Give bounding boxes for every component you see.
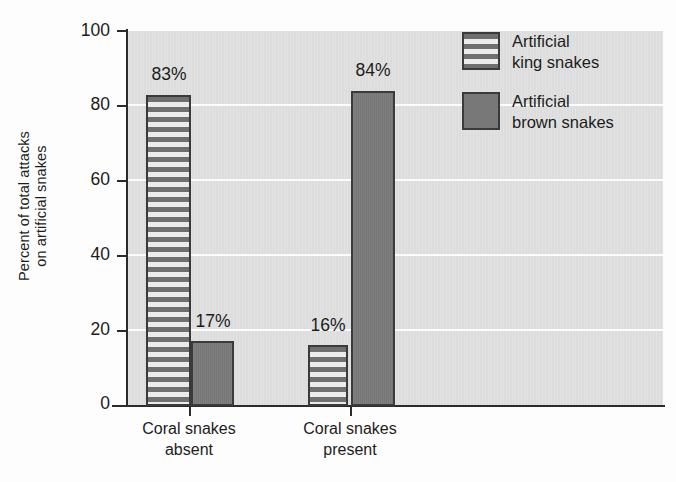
y-tick-mark-60 (117, 180, 126, 182)
bar-value-king-snakes-present: 16% (292, 315, 364, 336)
y-tick-label-20: 20 (48, 319, 110, 340)
y-axis-title: Percent of total attacks on artificial s… (0, 0, 48, 420)
x-tick-mark-present (350, 407, 352, 416)
y-axis-line (126, 29, 128, 407)
legend-label-king-snakes-line1: Artificial (512, 31, 599, 52)
legend: Artificial king snakes Artificial brown … (462, 31, 614, 151)
bar-value-brown-snakes-absent: 17% (177, 311, 249, 332)
legend-item-brown-snakes: Artificial brown snakes (462, 91, 614, 133)
bar-brown-snakes-present (351, 91, 395, 406)
legend-label-king-snakes: Artificial king snakes (512, 31, 599, 73)
x-category-present-line2: present (245, 439, 455, 460)
striped-swatch-icon (462, 32, 500, 70)
y-tick-mark-20 (117, 330, 126, 332)
legend-label-brown-snakes-line1: Artificial (512, 91, 614, 112)
y-tick-mark-100 (117, 30, 126, 32)
bar-brown-snakes-absent (191, 341, 234, 406)
y-tick-label-40: 40 (48, 244, 110, 265)
legend-item-king-snakes: Artificial king snakes (462, 31, 614, 73)
bar-king-snakes-absent (146, 95, 191, 406)
y-tick-mark-40 (117, 255, 126, 257)
legend-label-king-snakes-line2: king snakes (512, 52, 599, 73)
legend-label-brown-snakes: Artificial brown snakes (512, 91, 614, 133)
bar-king-snakes-present (308, 345, 348, 406)
x-category-present-line1: Coral snakes (245, 418, 455, 439)
gridline-60 (128, 179, 663, 181)
x-category-label-present: Coral snakes present (245, 418, 455, 460)
legend-label-brown-snakes-line2: brown snakes (512, 112, 614, 133)
bar-value-king-snakes-absent: 83% (133, 64, 205, 85)
y-tick-label-100: 100 (48, 20, 110, 41)
x-tick-mark-absent (189, 407, 191, 416)
solid-swatch-icon (462, 92, 500, 130)
y-axis-title-line1: Percent of total attacks (16, 36, 32, 376)
y-tick-label-0: 0 (48, 393, 110, 414)
y-tick-mark-80 (117, 105, 126, 107)
gridline-40 (128, 254, 663, 256)
y-axis-title-line2: on artificial snakes (33, 36, 49, 376)
bar-value-brown-snakes-present: 84% (337, 60, 409, 81)
y-tick-label-60: 60 (48, 169, 110, 190)
bar-chart-figure: Percent of total attacks on artificial s… (0, 0, 676, 482)
y-tick-label-80: 80 (48, 94, 110, 115)
